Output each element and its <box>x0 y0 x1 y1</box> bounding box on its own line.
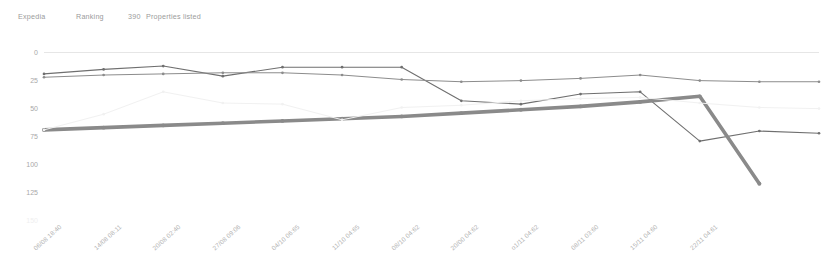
series-point-1 <box>758 80 761 83</box>
series-point-0 <box>818 132 821 135</box>
x-axis-tick-5: 11/10 04:65 <box>331 223 361 251</box>
series-point-0 <box>400 66 403 69</box>
series-point-3 <box>460 104 463 107</box>
x-axis-tick-6: 08/10 04:62 <box>390 223 421 252</box>
series-point-0 <box>520 103 523 106</box>
series-point-3 <box>520 99 523 102</box>
series-point-3 <box>43 129 46 132</box>
series-point-3 <box>341 118 344 121</box>
series-point-3 <box>162 90 165 93</box>
series-point-1 <box>102 74 105 77</box>
series-point-0 <box>698 140 701 143</box>
series-point-1 <box>222 71 225 74</box>
series-point-2 <box>221 121 225 125</box>
series-point-2 <box>102 126 106 130</box>
series-point-0 <box>341 66 344 69</box>
series-point-1 <box>520 79 523 82</box>
series-line-2 <box>44 96 759 183</box>
series-point-2 <box>281 119 285 123</box>
series-point-1 <box>43 76 46 79</box>
series-point-3 <box>400 106 403 109</box>
x-axis-labels: 06/08 18:4014/08 08:1120/08 02:4027/08 0… <box>0 219 835 277</box>
x-axis-tick-10: 15/11 04:60 <box>629 223 659 251</box>
series-point-3 <box>579 97 582 100</box>
series-point-2 <box>519 108 523 112</box>
series-point-0 <box>460 99 463 102</box>
series-line-1 <box>44 73 819 82</box>
x-axis-tick-8: o1/11 04:62 <box>509 223 539 251</box>
series-point-0 <box>102 68 105 71</box>
series-point-1 <box>639 74 642 77</box>
x-axis-tick-4: 04/10 06:65 <box>271 223 302 252</box>
series-point-0 <box>639 90 642 93</box>
series-point-0 <box>43 73 46 76</box>
series-point-2 <box>400 115 404 119</box>
x-axis-tick-7: 20/00 04:62 <box>449 223 480 252</box>
series-point-3 <box>818 107 821 110</box>
series-point-0 <box>758 130 761 133</box>
series-point-2 <box>161 124 165 128</box>
x-axis-tick-0: 06/08 18:40 <box>32 223 63 252</box>
x-axis-tick-9: 08/11 03:60 <box>569 223 599 251</box>
series-point-3 <box>639 96 642 99</box>
series-point-0 <box>281 66 284 69</box>
series-point-3 <box>698 102 701 105</box>
series-point-1 <box>460 80 463 83</box>
series-point-2 <box>757 182 761 186</box>
series-point-2 <box>698 94 702 98</box>
series-point-3 <box>222 102 225 105</box>
x-axis-tick-11: 22/11 04:61 <box>688 223 718 251</box>
series-point-1 <box>400 78 403 81</box>
x-axis-tick-2: 20/08 02:40 <box>151 223 182 252</box>
series-point-2 <box>579 104 583 108</box>
series-point-1 <box>341 74 344 77</box>
series-point-2 <box>459 111 463 115</box>
series-point-1 <box>162 73 165 76</box>
series-point-1 <box>698 79 701 82</box>
series-point-0 <box>579 93 582 96</box>
series-point-3 <box>102 113 105 116</box>
series-point-0 <box>222 75 225 78</box>
series-point-3 <box>281 103 284 106</box>
x-axis-tick-3: 27/08 09:06 <box>211 223 242 252</box>
ranking-chart: Expedia Ranking 390 Properties listed 02… <box>0 0 835 277</box>
series-point-0 <box>162 65 165 68</box>
series-point-1 <box>281 71 284 74</box>
x-axis-tick-1: 14/08 08:11 <box>92 223 122 251</box>
series-point-2 <box>638 100 642 104</box>
series-point-3 <box>758 106 761 109</box>
series-point-1 <box>579 77 582 80</box>
series-point-1 <box>818 80 821 83</box>
